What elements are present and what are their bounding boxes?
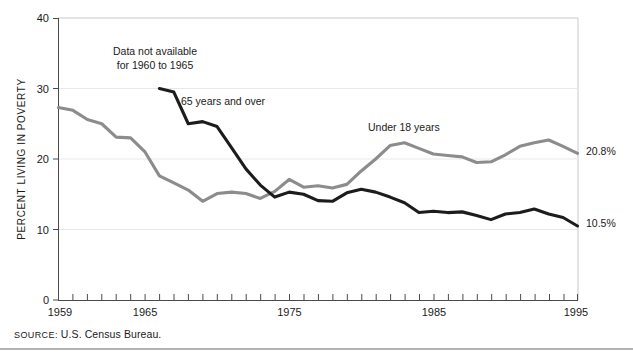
xtick-label-1965: 1965 (133, 306, 157, 318)
y-tick-labels: 40 30 20 10 0 (37, 12, 49, 306)
bottom-divider-rule (0, 348, 633, 350)
series-label-under-18-years: Under 18 years (368, 121, 440, 133)
ytick-label-10: 10 (37, 224, 49, 236)
data-gap-note-line1: Data not available (113, 45, 197, 57)
series-lines (59, 89, 578, 226)
ytick-label-30: 30 (37, 83, 49, 95)
x-tick-labels: 1959 1965 1975 1985 1995 (48, 306, 588, 318)
y-axis (53, 18, 59, 300)
xtick-label-1975: 1975 (277, 306, 301, 318)
ytick-label-0: 0 (43, 294, 49, 306)
xtick-label-1995: 1995 (564, 306, 588, 318)
poverty-rate-chart-figure: 40 30 20 10 0 PERCENT LIVING IN POVERTY (0, 0, 633, 352)
xtick-label-1985: 1985 (422, 306, 446, 318)
end-labels: 20.8% 10.5% (586, 145, 616, 229)
source-note: SOURCE: U.S. Census Bureau. (14, 328, 161, 340)
source-note-text: U.S. Census Bureau. (58, 328, 162, 340)
series-line-under-18-years (59, 108, 578, 202)
series-line-65-years-and-over (159, 89, 577, 226)
source-note-prefix: SOURCE: (14, 330, 58, 340)
data-gap-note-line2: for 1960 to 1965 (117, 59, 194, 71)
end-label-65-years-and-over: 10.5% (586, 217, 616, 229)
ytick-label-40: 40 (37, 12, 49, 24)
x-axis (58, 294, 578, 301)
x-minor-ticks (59, 294, 578, 300)
chart-canvas: 40 30 20 10 0 PERCENT LIVING IN POVERTY (0, 0, 633, 352)
end-label-under-18-years: 20.8% (586, 145, 616, 157)
series-label-65-years-and-over: 65 years and over (181, 95, 266, 107)
ytick-label-20: 20 (37, 153, 49, 165)
xtick-label-1959: 1959 (48, 306, 72, 318)
y-axis-title: PERCENT LIVING IN POVERTY (16, 78, 27, 239)
